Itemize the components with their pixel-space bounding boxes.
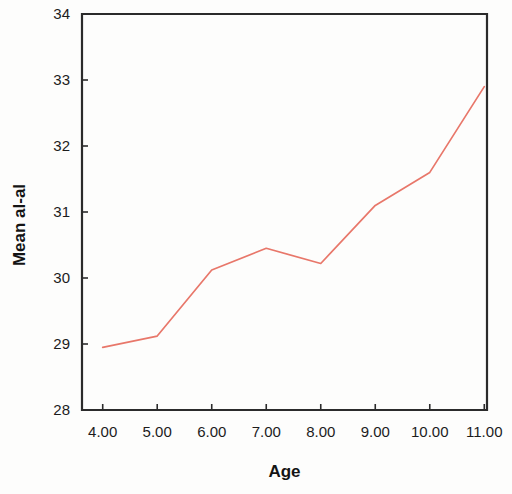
axis-frame bbox=[82, 14, 487, 410]
y-axis-tick-label: 31 bbox=[53, 203, 70, 220]
x-axis-tick-labels: 4.005.006.007.008.009.0010.0011.00 bbox=[88, 423, 502, 440]
y-axis-tick-label: 28 bbox=[53, 401, 70, 418]
y-axis-tick-label: 30 bbox=[53, 269, 70, 286]
x-axis-tick-label: 5.00 bbox=[143, 423, 172, 440]
x-axis-title: Age bbox=[82, 462, 487, 482]
x-axis-tick-label: 9.00 bbox=[361, 423, 390, 440]
line-chart: 28293031323334 4.005.006.007.008.009.001… bbox=[0, 0, 512, 494]
x-axis-tick-label: 8.00 bbox=[306, 423, 335, 440]
y-axis-tick-label: 29 bbox=[53, 335, 70, 352]
y-axis-tick-label: 32 bbox=[53, 137, 70, 154]
data-series-line bbox=[103, 87, 485, 348]
y-axis-tick-label: 33 bbox=[53, 71, 70, 88]
x-axis-tick-label: 4.00 bbox=[88, 423, 117, 440]
y-axis-tick-labels: 28293031323334 bbox=[53, 5, 70, 418]
x-axis-tick-label: 6.00 bbox=[197, 423, 226, 440]
y-axis-tick-label: 34 bbox=[53, 5, 70, 22]
x-axis-tick-label: 7.00 bbox=[252, 423, 281, 440]
x-axis-title-text: Age bbox=[268, 462, 300, 481]
x-axis-tick-label: 10.00 bbox=[411, 423, 449, 440]
chart-page: Mean al-al 28293031323334 4.005.006.007.… bbox=[0, 0, 512, 494]
x-axis-tick-label: 11.00 bbox=[466, 423, 502, 440]
